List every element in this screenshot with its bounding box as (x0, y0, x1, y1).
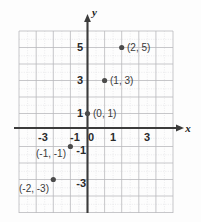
coordinate-plane-svg: y x -3 -1 0 1 3 5 3 1 -1 -3 (2, 5) (0, 0, 201, 222)
data-point-label-2-5: (2, 5) (127, 42, 150, 53)
data-point[interactable] (51, 177, 56, 182)
y-axis-arrowhead (84, 14, 91, 22)
y-axis-label: y (90, 6, 97, 18)
data-point-label-neg2-neg3: (-2, -3) (19, 183, 49, 194)
data-point[interactable] (85, 111, 90, 116)
y-tick-plus-3: 3 (77, 74, 83, 86)
x-axis-label: x (184, 122, 191, 134)
data-point[interactable] (68, 144, 73, 149)
x-tick-labels: -3 -1 0 1 3 (38, 131, 150, 143)
data-point-label-0-1: (0, 1) (93, 108, 116, 119)
x-axis-arrowhead (176, 125, 184, 132)
y-tick-minus-3: -3 (76, 177, 86, 189)
x-tick-plus-3: 3 (144, 131, 150, 143)
x-tick-minus-3: -3 (38, 131, 48, 143)
coordinate-plane-figure: y x -3 -1 0 1 3 5 3 1 -1 -3 (2, 5) (0, 0, 201, 222)
x-tick-minus-1: -1 (70, 131, 80, 143)
y-tick-labels: 5 3 1 -1 -3 (76, 41, 86, 189)
data-point[interactable] (119, 45, 124, 50)
data-point-label-neg1-neg1: (-1, -1) (36, 148, 66, 159)
y-tick-minus-1: -1 (76, 144, 86, 156)
x-tick-plus-1: 1 (110, 131, 116, 143)
y-tick-plus-5: 5 (77, 41, 83, 53)
y-tick-plus-1: 1 (77, 107, 83, 119)
data-point-label-1-3: (1, 3) (110, 75, 133, 86)
data-point[interactable] (102, 78, 107, 83)
x-tick-zero: 0 (88, 131, 94, 143)
